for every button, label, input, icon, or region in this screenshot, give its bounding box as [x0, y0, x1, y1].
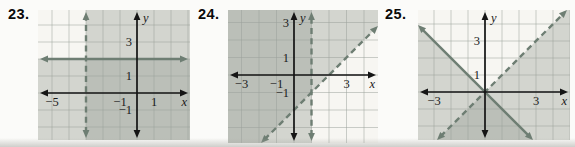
scan-shadow — [0, 138, 575, 147]
svg-text:1: 1 — [151, 95, 157, 109]
svg-text:−1: −1 — [276, 86, 289, 100]
textbook-graphs-row: 23. −5−1131−1xy 24. −3−1331−1xy 25. −333… — [0, 0, 575, 147]
svg-text:y: y — [489, 11, 497, 25]
svg-text:y: y — [141, 11, 149, 25]
svg-text:−3: −3 — [235, 77, 248, 91]
svg-text:x: x — [368, 77, 375, 91]
svg-text:x: x — [180, 95, 187, 109]
svg-text:3: 3 — [533, 94, 539, 108]
svg-text:−3: −3 — [427, 94, 440, 108]
problem-number-24: 24. — [198, 6, 219, 22]
problem-number-23: 23. — [8, 6, 29, 22]
svg-text:y: y — [298, 11, 306, 25]
svg-text:1: 1 — [474, 68, 480, 82]
svg-text:1: 1 — [283, 51, 289, 65]
graph-24-coordinate-plane: −3−1331−1xy — [228, 10, 378, 143]
svg-text:−1: −1 — [119, 103, 132, 117]
svg-text:3: 3 — [283, 16, 289, 30]
svg-text:3: 3 — [474, 34, 480, 48]
graph-25-coordinate-plane: −3331xy — [418, 10, 570, 140]
svg-text:1: 1 — [126, 69, 132, 83]
graph-23-coordinate-plane: −5−1131−1xy — [38, 10, 190, 140]
svg-text:−5: −5 — [45, 95, 58, 109]
problem-number-25: 25. — [385, 6, 406, 22]
svg-text:x: x — [560, 94, 567, 108]
svg-text:3: 3 — [126, 35, 132, 49]
svg-text:3: 3 — [343, 77, 349, 91]
